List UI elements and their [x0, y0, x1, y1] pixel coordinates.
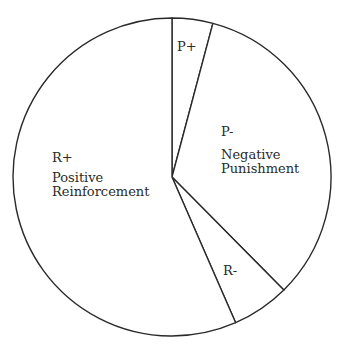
slice-label-r-plus: R+: [52, 150, 73, 165]
slice-label-r-plus-line2: Reinforcement: [52, 184, 150, 199]
slice-label-r-minus: R-: [223, 263, 237, 278]
pie-chart: P+ P- Negative Punishment R- R+ Positive…: [0, 0, 343, 350]
slice-label-p-minus-line1: Negative: [221, 147, 281, 162]
slice-label-p-plus: P+: [177, 39, 197, 54]
pie-chart-svg: P+ P- Negative Punishment R- R+ Positive…: [0, 0, 343, 350]
slice-label-p-minus: P-: [221, 124, 233, 139]
slice-label-r-plus-line1: Positive: [52, 170, 104, 185]
slice-label-p-minus-line2: Punishment: [221, 161, 300, 176]
